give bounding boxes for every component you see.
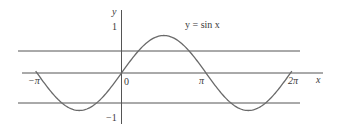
x-tick-pi: π [199,75,205,86]
sine-chart: y 1 −1 0 −π π 2π x y = sin x [0,0,340,131]
x-axis-label: x [315,74,321,85]
function-label: y = sin x [185,19,220,30]
x-tick-neg-pi: −π [28,75,41,86]
y-tick-one: 1 [112,21,117,32]
x-tick-two-pi: 2π [288,75,299,86]
y-tick-minus-one: −1 [106,112,117,123]
y-axis-label: y [111,6,117,17]
origin-label: 0 [124,76,129,87]
